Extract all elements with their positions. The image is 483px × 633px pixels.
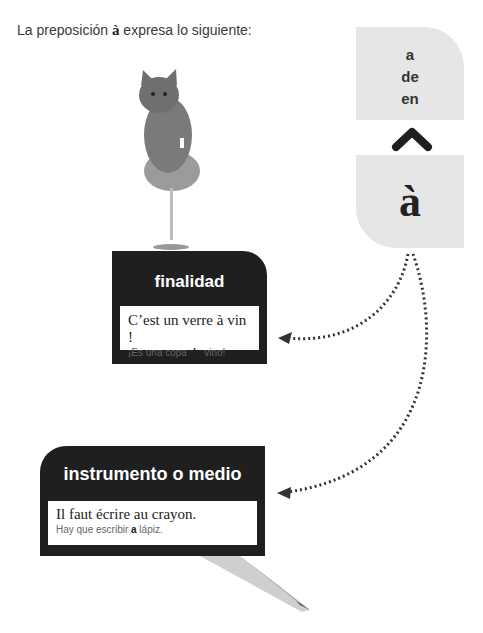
dotted-arrows	[0, 0, 483, 633]
arrow-to-instrumento	[288, 254, 427, 492]
arrow-to-finalidad	[288, 254, 408, 339]
